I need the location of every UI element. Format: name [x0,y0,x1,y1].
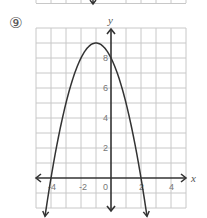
tick-y-2: 2 [103,143,108,153]
tick-y-8: 8 [103,53,108,63]
tick-x-neg2: -2 [79,182,87,192]
problem-number: ⑨ [9,14,22,32]
tick-x-4: 4 [169,182,174,192]
graph-figure: ⑨ x y -4 -2 0 [0,0,207,218]
previous-graph-fragment [36,0,186,4]
x-axis-label: x [190,172,196,184]
tick-y-4: 4 [103,113,108,123]
tick-x-0: 0 [103,182,108,192]
y-axis-label: y [107,14,113,26]
tick-y-6: 6 [103,83,108,93]
